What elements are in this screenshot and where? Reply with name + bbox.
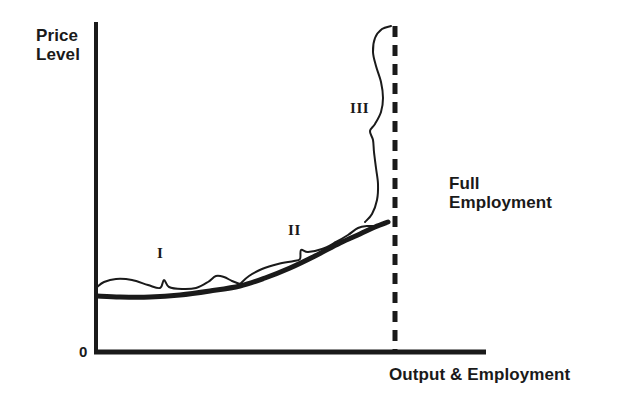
aggregate-supply-curve: [97, 222, 388, 297]
full-employment-label: Full Employment: [449, 174, 552, 212]
range-label-1: I: [157, 245, 163, 262]
aggregate-supply-figure: Price Level Output & Employment 0 Full E…: [0, 0, 621, 412]
origin-label: 0: [79, 344, 87, 361]
range-label-2: II: [288, 222, 301, 239]
brace-range-3: [365, 26, 391, 222]
brace-range-1: [97, 276, 240, 289]
y-axis-title: Price Level: [36, 26, 80, 64]
range-label-3: III: [350, 100, 369, 117]
x-axis-title: Output & Employment: [389, 365, 570, 384]
